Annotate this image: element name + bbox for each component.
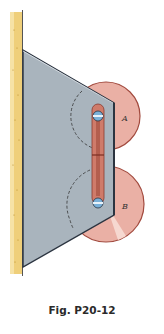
wall <box>10 10 23 276</box>
disk-b-label: B <box>121 202 128 211</box>
pin-a <box>93 111 103 121</box>
disk-a-label: A <box>121 114 128 123</box>
figure-caption: Fig. P20-12 <box>0 304 164 316</box>
figure-diagram: A B <box>0 0 164 334</box>
pin-b <box>93 198 103 208</box>
